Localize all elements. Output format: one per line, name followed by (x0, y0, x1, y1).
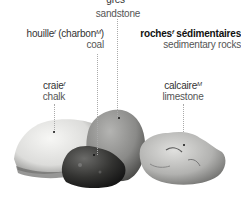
title-fr: rochesf sédimentaires (140, 28, 241, 39)
coal-fr: houillef (charbonM) (20, 28, 104, 39)
coal-dot (93, 154, 95, 156)
sandstone-en: sandstone (88, 8, 148, 19)
category-title: rochesf sédimentaires sedimentary rocks (140, 28, 241, 50)
limestone-rock (140, 132, 226, 185)
coal-en: coal (20, 39, 104, 50)
sandstone-label: grèsM sandstone (88, 0, 148, 19)
chalk-dot (53, 131, 55, 133)
sandstone-fr: grèsM (88, 0, 148, 5)
limestone-dot (183, 144, 185, 146)
limestone-en: limestone (158, 91, 208, 102)
limestone-leader (183, 104, 184, 132)
limestone-label: calcaireM limestone (158, 80, 208, 102)
sedimentary-rocks-illustration: grèsM sandstone houillef (charbonM) coal… (0, 0, 241, 204)
chalk-fr: craief (30, 80, 78, 91)
limestone-fr: calcaireM (158, 80, 208, 91)
coal-leader (97, 54, 98, 155)
chalk-label: craief chalk (30, 80, 78, 102)
coal-label: houillef (charbonM) coal (20, 28, 104, 50)
sandstone-leader (117, 19, 118, 118)
sandstone-dot (118, 117, 120, 119)
chalk-leader (54, 104, 55, 132)
title-en: sedimentary rocks (140, 39, 241, 50)
chalk-en: chalk (30, 91, 78, 102)
